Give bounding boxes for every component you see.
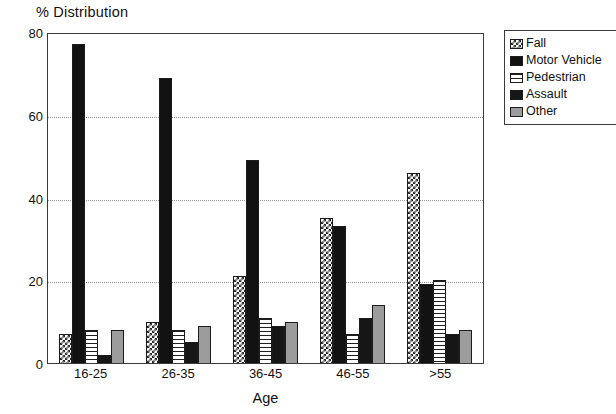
x-tick-label: 26-35 [134, 366, 221, 388]
x-tick-label: 46-55 [309, 366, 396, 388]
x-axis: 16-2526-3536-4546-55>55 [47, 366, 484, 388]
bar[interactable] [420, 284, 433, 363]
bar-group [48, 34, 135, 363]
legend-item[interactable]: Assault [510, 86, 616, 103]
legend-label: Motor Vehicle [526, 54, 602, 67]
bar-group [135, 34, 222, 363]
legend-label: Fall [526, 37, 546, 50]
bar-group [396, 34, 483, 363]
bar-group [309, 34, 396, 363]
plot-area [47, 33, 484, 364]
legend-item[interactable]: Pedestrian [510, 69, 616, 86]
bar[interactable] [407, 173, 420, 363]
y-tick-label: 80 [1, 26, 43, 41]
x-axis-title: Age [47, 390, 484, 406]
bar[interactable] [459, 330, 472, 363]
y-tick-label: 0 [1, 357, 43, 372]
x-tick-label: >55 [397, 366, 484, 388]
bar[interactable] [359, 318, 372, 364]
bar[interactable] [159, 78, 172, 363]
legend-swatch-icon [510, 90, 523, 100]
legend-item[interactable]: Motor Vehicle [510, 52, 616, 69]
bar[interactable] [272, 326, 285, 363]
legend-label: Other [526, 105, 557, 118]
bar[interactable] [433, 280, 446, 363]
bar[interactable] [85, 330, 98, 363]
legend-swatch-icon [510, 39, 523, 49]
bar[interactable] [246, 160, 259, 363]
bar[interactable] [446, 334, 459, 363]
legend-label: Assault [526, 88, 567, 101]
bar[interactable] [372, 305, 385, 363]
y-tick-label: 20 [1, 274, 43, 289]
legend-swatch-icon [510, 56, 523, 66]
legend-swatch-icon [510, 73, 523, 83]
bar[interactable] [198, 326, 211, 363]
x-tick-label: 16-25 [47, 366, 134, 388]
legend: FallMotor VehiclePedestrianAssaultOther [504, 30, 616, 125]
bar[interactable] [285, 322, 298, 363]
bar-chart-figure: % Distribution 020406080 16-2526-3536-45… [0, 0, 616, 414]
bar-group [222, 34, 309, 363]
legend-swatch-icon [510, 107, 523, 117]
y-tick-label: 40 [1, 191, 43, 206]
bar[interactable] [98, 355, 111, 363]
bar[interactable] [259, 318, 272, 364]
legend-label: Pedestrian [526, 71, 586, 84]
bar[interactable] [59, 334, 72, 363]
bars-layer [48, 34, 483, 363]
bar[interactable] [233, 276, 246, 363]
bar[interactable] [333, 226, 346, 363]
legend-item[interactable]: Other [510, 103, 616, 120]
bar[interactable] [185, 342, 198, 363]
bar[interactable] [72, 44, 85, 363]
x-tick-label: 36-45 [222, 366, 309, 388]
bar[interactable] [320, 218, 333, 363]
y-tick-label: 60 [1, 108, 43, 123]
bar[interactable] [172, 330, 185, 363]
bar[interactable] [146, 322, 159, 363]
legend-item[interactable]: Fall [510, 35, 616, 52]
y-axis: 020406080 [0, 33, 43, 364]
bar[interactable] [111, 330, 124, 363]
bar[interactable] [346, 334, 359, 363]
chart-title: % Distribution [36, 4, 128, 20]
